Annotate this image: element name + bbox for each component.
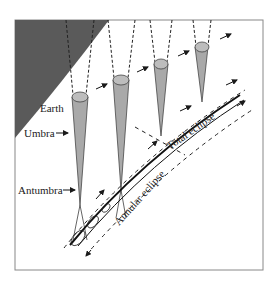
label-total-eclipse: Total eclipse — [164, 110, 217, 152]
antumbra-ellipses — [68, 202, 111, 248]
earth-shape — [15, 20, 109, 138]
label-antumbra: Antumbra — [18, 184, 63, 196]
eclipse-diagram: Earth Umbra Antumbra Total eclipse Annul… — [0, 0, 276, 283]
label-earth: Earth — [40, 102, 64, 114]
label-umbra: Umbra — [24, 127, 55, 139]
